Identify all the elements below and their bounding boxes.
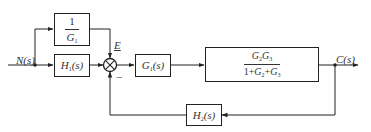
output-signal-label: C(s) xyxy=(336,54,355,65)
block-h2: H2(s) xyxy=(186,104,222,126)
error-signal-label: E xyxy=(114,40,121,51)
fraction: 1 G1 xyxy=(65,16,79,44)
plant-numerator: G2G3 xyxy=(244,51,280,65)
feedforward-to-sum xyxy=(89,29,110,58)
input-signal-label: N(s) xyxy=(16,55,35,66)
plant-fraction: G2G3 1+G2+G3 xyxy=(244,51,281,78)
h2-label: H2(s) xyxy=(193,109,216,122)
block-plant: G2G3 1+G2+G3 xyxy=(205,47,319,82)
h1-label: H1(s) xyxy=(61,59,84,72)
denominator: G1 xyxy=(67,30,78,44)
numerator: 1 xyxy=(65,16,79,30)
feedforward-branch xyxy=(35,29,53,65)
feedback-minus-sign: − xyxy=(116,72,122,83)
block-g1: G1(s) xyxy=(135,54,171,77)
plant-denominator: 1+G2+G3 xyxy=(244,65,281,78)
block-h1: H1(s) xyxy=(54,54,90,77)
g1-label: G1(s) xyxy=(142,59,165,72)
block-feedforward-inverse-g1: 1 G1 xyxy=(54,13,90,46)
